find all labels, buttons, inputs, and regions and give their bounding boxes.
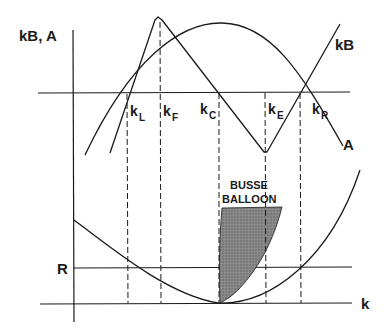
svg-text:k: k <box>130 103 138 119</box>
svg-text:k: k <box>312 101 320 117</box>
k-marker-R: k R <box>312 101 329 121</box>
dashed-kL <box>127 94 128 303</box>
busse-balloon-diagram: kB, A kB A R k k L k F k C k E k R BUSSE… <box>0 0 390 333</box>
svg-text:F: F <box>172 112 178 123</box>
svg-text:k: k <box>268 101 276 117</box>
k-axis <box>40 303 352 304</box>
svg-text:C: C <box>209 110 216 121</box>
k-marker-F: k F <box>163 103 178 123</box>
k-marker-E: k E <box>268 101 284 121</box>
dashed-kR <box>300 93 301 303</box>
kB-curve-label: kB <box>335 36 354 53</box>
svg-text:R: R <box>321 110 329 121</box>
r-label: R <box>57 260 68 277</box>
busse-label-line2: BALLOON <box>222 193 276 205</box>
A-curve-label: A <box>343 136 354 153</box>
busse-label-line1: BUSSE <box>230 179 268 191</box>
y-axis-label: kB, A <box>19 27 57 44</box>
k-marker-C: k C <box>200 101 216 121</box>
svg-text:k: k <box>200 101 208 117</box>
A-curve <box>85 23 343 155</box>
svg-text:L: L <box>139 112 145 123</box>
svg-text:E: E <box>277 110 284 121</box>
svg-text:k: k <box>163 103 171 119</box>
k-marker-L: k L <box>130 103 145 123</box>
r-line <box>74 267 352 268</box>
x-axis-label: k <box>361 295 370 312</box>
lower-u-curve <box>74 170 360 303</box>
dashed-kF <box>160 22 161 303</box>
threshold-line <box>38 92 350 93</box>
vertical-axis <box>73 30 74 322</box>
